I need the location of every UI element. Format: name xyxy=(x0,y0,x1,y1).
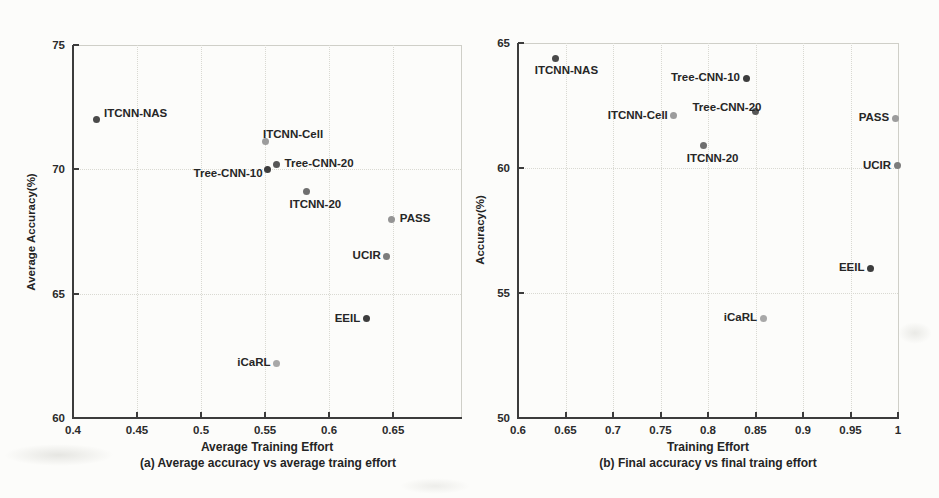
gridline-horizontal-b xyxy=(518,168,898,169)
x-tick-label-a: 0.45 xyxy=(126,424,148,436)
y-tick-b xyxy=(518,417,524,419)
x-axis-label-a: Average Training Effort xyxy=(73,440,461,454)
x-tick-label-a: 0.6 xyxy=(321,424,337,436)
point-label-eeil-a: EEIL xyxy=(335,312,361,324)
y-tick-label-b: 65 xyxy=(497,37,510,49)
x-tick-label-a: 0.55 xyxy=(254,424,276,436)
point-ucir-a xyxy=(383,253,390,260)
gridline-vertical-a xyxy=(329,45,330,418)
x-tick-label-b: 0.6 xyxy=(510,424,526,436)
point-icarl-b xyxy=(760,315,767,322)
point-pass-a xyxy=(388,216,395,223)
point-label-itcnn-nas-b: ITCNN-NAS xyxy=(535,64,598,76)
x-tick-label-b: 0.85 xyxy=(744,424,766,436)
point-itcnn-nas-a xyxy=(93,116,100,123)
plot-right-border-a xyxy=(461,45,462,418)
point-label-tree-cnn-10-a: Tree-CNN-10 xyxy=(194,168,263,180)
point-label-pass-a: PASS xyxy=(400,212,430,224)
x-tick-label-b: 0.75 xyxy=(649,424,671,436)
y-tick-label-a: 75 xyxy=(52,39,65,51)
x-tick-a xyxy=(328,412,330,418)
gridline-vertical-a xyxy=(393,45,394,418)
gridline-vertical-b xyxy=(851,43,852,418)
gridline-vertical-b xyxy=(566,43,567,418)
point-tree-cnn-10-b xyxy=(743,75,750,82)
plot-top-border-a xyxy=(73,45,461,46)
point-label-ucir-a: UCIR xyxy=(353,250,381,262)
gridline-vertical-b xyxy=(803,43,804,418)
plot-right-border-b xyxy=(898,43,899,418)
scan-artifact xyxy=(898,322,932,344)
x-tick-label-b: 1 xyxy=(895,424,901,436)
point-itcnn-nas-b xyxy=(552,55,559,62)
caption-b: (b) Final accuracy vs final traing effor… xyxy=(488,456,928,470)
x-tick-label-b: 0.7 xyxy=(605,424,621,436)
gridline-vertical-b xyxy=(708,43,709,418)
point-eeil-a xyxy=(363,315,370,322)
x-tick-b xyxy=(612,412,614,418)
y-tick-label-a: 65 xyxy=(52,288,65,300)
figure-canvas: Average Training Effort (a) Average accu… xyxy=(0,0,939,498)
gridline-vertical-b xyxy=(613,43,614,418)
x-tick-b xyxy=(755,412,757,418)
point-label-tree-cnn-20-a: Tree-CNN-20 xyxy=(285,158,354,170)
x-tick-b xyxy=(850,412,852,418)
x-tick-b xyxy=(802,412,804,418)
x-axis-a xyxy=(72,417,462,419)
x-tick-a xyxy=(136,412,138,418)
x-tick-b xyxy=(660,412,662,418)
x-tick-label-a: 0.4 xyxy=(65,424,81,436)
y-tick-a xyxy=(73,168,79,170)
x-tick-a xyxy=(392,412,394,418)
gridline-vertical-a xyxy=(201,45,202,418)
y-tick-a xyxy=(73,293,79,295)
x-tick-label-b: 0.65 xyxy=(554,424,576,436)
scan-artifact xyxy=(400,478,470,494)
x-tick-b xyxy=(707,412,709,418)
point-label-pass-b: PASS xyxy=(859,111,889,123)
point-label-itcnn-cell-b: ITCNN-Cell xyxy=(608,109,668,121)
point-tree-cnn-20-a xyxy=(273,161,280,168)
point-label-eeil-b: EEIL xyxy=(839,261,865,273)
y-tick-label-a: 70 xyxy=(52,163,65,175)
x-tick-label-b: 0.9 xyxy=(795,424,811,436)
x-tick-b xyxy=(565,412,567,418)
point-label-icarl-a: iCaRL xyxy=(237,357,270,369)
point-icarl-a xyxy=(273,360,280,367)
x-tick-label-a: 0.5 xyxy=(193,424,209,436)
point-itcnn-20-a xyxy=(303,188,310,195)
point-label-itcnn-20-b: ITCNN-20 xyxy=(687,152,739,164)
point-label-itcnn-20-a: ITCNN-20 xyxy=(289,198,341,210)
y-tick-b xyxy=(518,42,524,44)
caption-a: (a) Average accuracy vs average traing e… xyxy=(48,456,488,470)
point-label-itcnn-cell-a: ITCNN-Cell xyxy=(263,128,323,140)
y-tick-a xyxy=(73,417,79,419)
y-axis-label-b: Accuracy(%) xyxy=(474,195,486,265)
gridline-vertical-b xyxy=(661,43,662,418)
x-axis-label-b: Training Effort xyxy=(518,440,898,454)
point-label-ucir-b: UCIR xyxy=(863,159,891,171)
x-tick-a xyxy=(264,412,266,418)
y-axis-a xyxy=(72,45,74,418)
gridline-horizontal-a xyxy=(73,294,461,295)
y-tick-label-a: 60 xyxy=(52,412,65,424)
point-label-itcnn-nas-a: ITCNN-NAS xyxy=(104,107,167,119)
x-tick-label-a: 0.65 xyxy=(382,424,404,436)
y-tick-label-b: 55 xyxy=(497,287,510,299)
y-tick-b xyxy=(518,167,524,169)
point-itcnn-20-b xyxy=(700,142,707,149)
point-label-tree-cnn-10-b: Tree-CNN-10 xyxy=(671,71,740,83)
x-tick-label-b: 0.95 xyxy=(839,424,861,436)
point-pass-b xyxy=(892,115,899,122)
point-label-icarl-b: iCaRL xyxy=(724,311,757,323)
y-axis-b xyxy=(517,43,519,418)
y-axis-label-a: Average Accuracy(%) xyxy=(25,173,37,290)
x-tick-b xyxy=(897,412,899,418)
point-ucir-b xyxy=(894,162,901,169)
point-tree-cnn-10-a xyxy=(264,166,271,173)
gridline-vertical-a xyxy=(137,45,138,418)
gridline-horizontal-b xyxy=(518,293,898,294)
y-tick-label-b: 50 xyxy=(497,412,510,424)
point-itcnn-cell-b xyxy=(670,112,677,119)
y-tick-label-b: 60 xyxy=(497,162,510,174)
